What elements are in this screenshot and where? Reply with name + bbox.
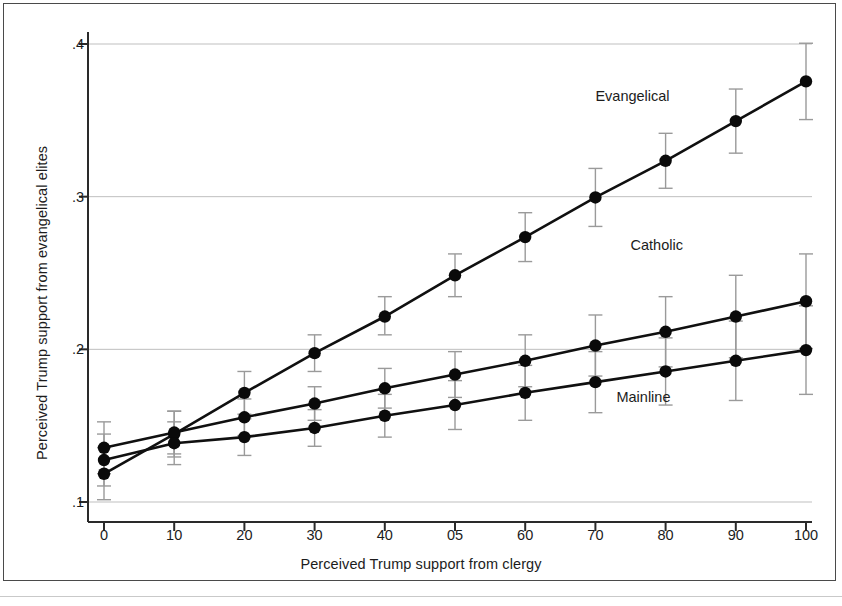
series-label-mainline: Mainline — [616, 389, 670, 405]
y-tick-label: .2 — [44, 341, 84, 357]
series-label-evangelical: Evangelical — [595, 88, 669, 104]
figure-container: Perceived Trump support from evangelical… — [0, 0, 842, 606]
x-axis-title: Perceived Trump support from clergy — [0, 556, 842, 572]
series-label-catholic: Catholic — [631, 237, 683, 253]
x-tick-label: 05 — [447, 527, 463, 543]
y-tick-label: .3 — [44, 189, 84, 205]
x-tick-label: 70 — [587, 527, 603, 543]
x-tick-label: 0 — [100, 527, 108, 543]
x-tick-label: 100 — [794, 527, 818, 543]
y-tick-label: .1 — [44, 494, 84, 510]
x-tick-label: 40 — [377, 527, 393, 543]
x-tick-label: 10 — [166, 527, 182, 543]
x-tick-label: 60 — [517, 527, 533, 543]
x-tick-label: 90 — [728, 527, 744, 543]
y-tick-label: .4 — [44, 36, 84, 52]
line-chart-plot — [0, 0, 842, 606]
x-tick-label: 30 — [307, 527, 323, 543]
x-tick-label: 20 — [236, 527, 252, 543]
x-tick-label: 80 — [658, 527, 674, 543]
